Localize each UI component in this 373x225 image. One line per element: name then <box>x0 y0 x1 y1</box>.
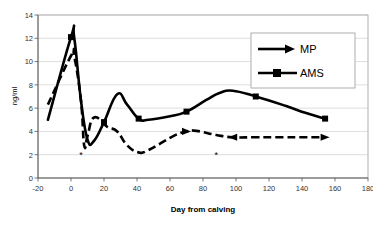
x-axis-ticks: -20020406080100120140160180 <box>33 178 373 193</box>
y-tick-label-10: 10 <box>25 57 33 66</box>
x-tick-label-180: 180 <box>362 184 373 193</box>
legend-label-ams: AMS <box>300 67 324 79</box>
x-tick-label-100: 100 <box>230 184 243 193</box>
x-tick-label-80: 80 <box>199 184 207 193</box>
data-marker-square <box>101 119 107 125</box>
data-marker-square <box>184 109 190 115</box>
data-marker-square <box>68 34 74 40</box>
x-tick-label-120: 120 <box>263 184 276 193</box>
data-marker-square <box>322 116 328 122</box>
y-tick-label-2: 2 <box>29 151 33 160</box>
x-tick-label-40: 40 <box>133 184 141 193</box>
chart-container: -20020406080100120140160180 02468101214 … <box>0 0 373 225</box>
x-tick-label-60: 60 <box>166 184 174 193</box>
annotation-asterisk-2: * <box>214 150 218 160</box>
x-tick-label-140: 140 <box>296 184 309 193</box>
chart-legend: MP AMS <box>251 33 355 88</box>
legend-label-mp: MP <box>300 43 317 55</box>
y-tick-label-14: 14 <box>25 11 33 20</box>
x-tick-label-0: 0 <box>69 184 73 193</box>
y-axis-title: ng/ml <box>10 86 19 105</box>
y-tick-label-6: 6 <box>29 104 33 113</box>
data-marker-triangle <box>321 134 330 141</box>
line-chart: -20020406080100120140160180 02468101214 … <box>0 0 373 225</box>
annotation-asterisk-1: * <box>79 150 83 160</box>
data-marker-square <box>136 116 142 122</box>
legend-box <box>251 33 355 88</box>
x-tick-label--20: -20 <box>33 184 44 193</box>
y-tick-label-4: 4 <box>29 127 33 136</box>
y-tick-label-0: 0 <box>29 174 33 183</box>
x-axis-title: Day from calving <box>171 205 236 214</box>
x-tick-label-20: 20 <box>100 184 108 193</box>
legend-marker-square-icon <box>273 69 281 77</box>
y-axis-ticks: 02468101214 <box>25 11 38 183</box>
y-tick-label-12: 12 <box>25 34 33 43</box>
y-tick-label-8: 8 <box>29 81 33 90</box>
data-marker-triangle <box>182 128 191 135</box>
data-marker-triangle <box>228 134 237 141</box>
data-marker-square <box>253 94 259 100</box>
x-tick-label-160: 160 <box>329 184 342 193</box>
